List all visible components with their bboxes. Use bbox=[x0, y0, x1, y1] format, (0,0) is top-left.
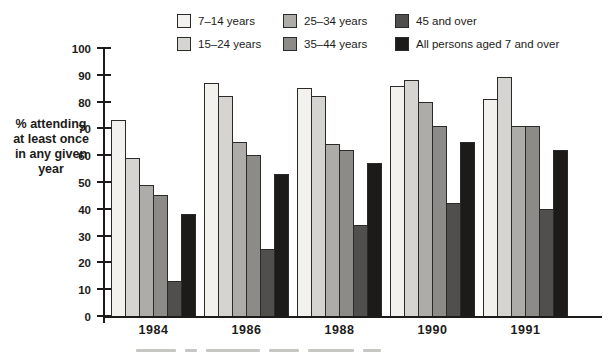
bar-15-24-years-1986 bbox=[218, 96, 233, 316]
legend-item-25-34-years: 25–34 years bbox=[283, 14, 395, 28]
y-tick-label: 70 bbox=[57, 123, 91, 135]
y-tick-label: 60 bbox=[57, 150, 91, 162]
y-axis-overhang bbox=[103, 316, 105, 323]
cropped-caption-remnant bbox=[136, 349, 381, 352]
y-tick bbox=[97, 261, 111, 263]
cropped-caption-mark bbox=[363, 349, 381, 352]
bar-all-persons-aged-7-and-over-1988 bbox=[367, 163, 382, 316]
y-tick bbox=[97, 288, 111, 290]
bar-7-14-years-1990 bbox=[390, 86, 405, 316]
legend-label: 45 and over bbox=[416, 15, 477, 28]
bar-7-14-years-1984 bbox=[111, 120, 126, 316]
y-tick-label: 10 bbox=[57, 284, 91, 296]
bar-15-24-years-1988 bbox=[311, 96, 326, 316]
y-tick bbox=[97, 154, 111, 156]
x-tick-label-1990: 1990 bbox=[390, 323, 475, 337]
y-tick bbox=[97, 181, 111, 183]
x-tick-label-1988: 1988 bbox=[297, 323, 382, 337]
y-axis-title-line: year bbox=[3, 162, 99, 177]
legend-swatch bbox=[395, 14, 409, 28]
bar-25-34-years-1986 bbox=[232, 142, 247, 316]
bar-group-1988: 1988 bbox=[297, 88, 382, 316]
bar-45-and-over-1986 bbox=[260, 249, 275, 316]
cropped-caption-mark bbox=[206, 349, 260, 352]
y-tick-label: 50 bbox=[57, 177, 91, 189]
bar-25-34-years-1988 bbox=[325, 144, 340, 316]
y-tick-label: 90 bbox=[57, 70, 91, 82]
bar-35-44-years-1990 bbox=[432, 126, 447, 316]
y-tick bbox=[97, 208, 111, 210]
legend-label: 7–14 years bbox=[198, 15, 255, 28]
bar-group-1984: 1984 bbox=[111, 120, 196, 316]
bar-35-44-years-1991 bbox=[525, 126, 540, 316]
y-tick bbox=[97, 127, 111, 129]
bar-all-persons-aged-7-and-over-1991 bbox=[553, 150, 568, 316]
bar-15-24-years-1990 bbox=[404, 80, 419, 316]
y-tick-label: 40 bbox=[57, 204, 91, 216]
y-tick bbox=[97, 101, 111, 103]
cropped-caption-mark bbox=[269, 349, 299, 352]
legend-swatch bbox=[177, 14, 191, 28]
plot-groups: 19841986198819901991 bbox=[105, 48, 602, 316]
y-tick-label: 0 bbox=[57, 311, 91, 323]
bar-25-34-years-1991 bbox=[511, 126, 526, 316]
bar-25-34-years-1990 bbox=[418, 102, 433, 316]
y-tick-label: 20 bbox=[57, 257, 91, 269]
bar-15-24-years-1991 bbox=[497, 77, 512, 316]
y-tick-label: 80 bbox=[57, 97, 91, 109]
y-tick-label: 30 bbox=[57, 231, 91, 243]
cropped-caption-mark bbox=[308, 349, 354, 352]
bar-7-14-years-1986 bbox=[204, 83, 219, 316]
y-tick bbox=[97, 74, 111, 76]
bar-45-and-over-1988 bbox=[353, 225, 368, 316]
legend-item-45-and-over: 45 and over bbox=[395, 14, 559, 28]
plot-area: 19841986198819901991 0102030405060708090… bbox=[103, 48, 602, 318]
bar-45-and-over-1984 bbox=[167, 281, 182, 316]
bar-7-14-years-1988 bbox=[297, 88, 312, 316]
bar-35-44-years-1988 bbox=[339, 150, 354, 316]
x-tick-label-1984: 1984 bbox=[111, 323, 196, 337]
bar-7-14-years-1991 bbox=[483, 99, 498, 316]
bar-group-1990: 1990 bbox=[390, 80, 475, 316]
bar-all-persons-aged-7-and-over-1986 bbox=[274, 174, 289, 316]
cropped-caption-mark bbox=[136, 349, 176, 352]
x-tick-label-1986: 1986 bbox=[204, 323, 289, 337]
y-tick bbox=[97, 47, 111, 49]
bar-45-and-over-1991 bbox=[539, 209, 554, 316]
bar-35-44-years-1986 bbox=[246, 155, 261, 316]
legend-label: 25–34 years bbox=[304, 15, 367, 28]
legend-swatch bbox=[283, 14, 297, 28]
cropped-caption-mark bbox=[185, 349, 197, 352]
y-tick bbox=[97, 235, 111, 237]
legend-item-7-14-years: 7–14 years bbox=[177, 14, 283, 28]
bar-25-34-years-1984 bbox=[139, 185, 154, 316]
bar-group-1986: 1986 bbox=[204, 83, 289, 316]
bar-group-1991: 1991 bbox=[483, 77, 568, 316]
bar-15-24-years-1984 bbox=[125, 158, 140, 316]
bar-all-persons-aged-7-and-over-1990 bbox=[460, 142, 475, 316]
bar-45-and-over-1990 bbox=[446, 203, 461, 316]
y-tick-label: 100 bbox=[57, 43, 91, 55]
bar-all-persons-aged-7-and-over-1984 bbox=[181, 214, 196, 316]
legend: 7–14 years25–34 years45 and over15–24 ye… bbox=[177, 14, 559, 51]
bar-35-44-years-1984 bbox=[153, 195, 168, 316]
x-tick-label-1991: 1991 bbox=[483, 323, 568, 337]
